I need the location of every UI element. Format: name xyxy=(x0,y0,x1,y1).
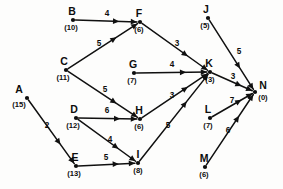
node-label-e: E xyxy=(71,151,78,163)
arrowhead-icon xyxy=(113,161,119,167)
edge-weight-d-i: 4 xyxy=(108,135,113,144)
edge-weight-d-h: 6 xyxy=(105,106,110,115)
node-e[interactable]: E(13) xyxy=(67,151,81,178)
edge-weight-b-f: 4 xyxy=(105,9,110,18)
arrowhead-icon xyxy=(233,116,239,123)
node-label-l: L xyxy=(205,103,212,115)
edge-weight-a-e: 2 xyxy=(45,121,50,130)
arrowhead-icon xyxy=(181,87,188,93)
edge-a-to-e xyxy=(28,100,74,164)
node-value-h: (6) xyxy=(134,122,144,131)
edge-c-to-f xyxy=(68,24,137,69)
node-value-j: (5) xyxy=(200,21,210,30)
arrowhead-icon xyxy=(113,18,119,24)
node-dot-icon xyxy=(74,116,78,120)
node-label-c: C xyxy=(60,55,68,67)
node-label-a: A xyxy=(15,83,23,95)
node-value-c: (11) xyxy=(56,73,70,82)
node-dot-icon xyxy=(136,161,140,165)
node-d[interactable]: D(12) xyxy=(66,103,80,130)
edge-d-to-h xyxy=(78,116,137,122)
edge-weight-c-f: 5 xyxy=(97,39,102,48)
node-dot-icon xyxy=(74,164,78,168)
edge-weight-l-n: 7 xyxy=(230,96,235,105)
edge-weight-h-k: 3 xyxy=(170,91,175,100)
node-value-i: (8) xyxy=(133,166,143,175)
node-label-n: N xyxy=(259,79,267,91)
node-label-g: G xyxy=(129,58,137,70)
arrowhead-icon xyxy=(55,138,61,145)
node-value-m: (6) xyxy=(199,170,209,179)
node-m[interactable]: M(6) xyxy=(199,152,209,179)
node-g[interactable]: G(7) xyxy=(127,58,137,85)
arrowhead-icon xyxy=(114,116,120,122)
network-diagram-canvas: A(15)B(10)C(11)D(12)E(13)F(6)G(7)H(6)I(8… xyxy=(0,0,283,189)
node-dot-icon xyxy=(138,20,142,24)
node-value-k: (3) xyxy=(205,75,215,84)
node-dot-icon xyxy=(206,16,210,20)
edge-weight-k-n: 3 xyxy=(231,72,236,81)
edge-i-to-k xyxy=(140,74,209,161)
node-dot-icon xyxy=(253,90,257,94)
node-label-f: F xyxy=(136,7,143,19)
node-value-b: (10) xyxy=(64,23,78,32)
node-value-d: (12) xyxy=(66,121,80,130)
arrowhead-icon xyxy=(181,50,188,56)
node-a[interactable]: A(15) xyxy=(12,83,29,109)
node-j[interactable]: J(5) xyxy=(200,3,210,30)
edge-weight-j-n: 5 xyxy=(237,47,242,56)
edge-b-to-f xyxy=(75,18,137,24)
node-label-m: M xyxy=(200,152,209,164)
edge-g-to-k xyxy=(136,69,207,75)
node-dot-icon xyxy=(208,70,212,74)
node-label-j: J xyxy=(203,3,209,15)
edge-weight-f-k: 3 xyxy=(175,39,180,48)
node-label-h: H xyxy=(135,104,143,116)
node-value-g: (7) xyxy=(127,76,137,85)
node-value-f: (6) xyxy=(134,25,144,34)
node-label-b: B xyxy=(68,5,76,17)
node-value-l: (7) xyxy=(203,121,213,130)
node-label-d: D xyxy=(70,103,78,115)
arrowhead-icon xyxy=(129,155,136,161)
node-dot-icon xyxy=(71,18,75,22)
node-dot-icon xyxy=(138,117,142,121)
node-dot-icon xyxy=(203,165,207,169)
node-f[interactable]: F(6) xyxy=(134,7,144,34)
node-dot-icon xyxy=(64,68,68,72)
node-dot-icon xyxy=(132,71,136,75)
edge-weight-g-k: 4 xyxy=(170,60,175,69)
arrowhead-icon xyxy=(112,143,119,149)
edge-weight-i-k: 5 xyxy=(166,121,171,130)
node-b[interactable]: B(10) xyxy=(64,5,78,32)
edge-h-to-k xyxy=(142,74,207,118)
edge-weight-m-n: 6 xyxy=(226,126,231,135)
edge-weight-e-i: 5 xyxy=(104,153,109,162)
arrowhead-icon xyxy=(180,69,186,75)
node-label-i: I xyxy=(137,148,140,160)
node-label-k: K xyxy=(205,57,213,69)
node-value-e: (13) xyxy=(67,169,81,178)
edge-weight-c-h: 5 xyxy=(103,85,108,94)
node-value-a: (15) xyxy=(12,100,26,109)
node-n[interactable]: N(0) xyxy=(253,79,268,102)
edges-layer xyxy=(28,18,253,167)
node-dot-icon xyxy=(208,116,212,120)
network-diagram: A(15)B(10)C(11)D(12)E(13)F(6)G(7)H(6)I(8… xyxy=(0,0,283,189)
nodes-layer: A(15)B(10)C(11)D(12)E(13)F(6)G(7)H(6)I(8… xyxy=(12,3,268,179)
node-value-n: (0) xyxy=(258,93,268,102)
